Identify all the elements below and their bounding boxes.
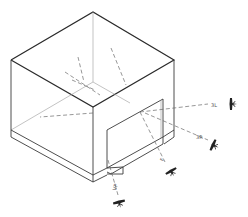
box-interior-edges — [11, 12, 130, 130]
box-vertical-edges — [11, 60, 174, 175]
ray-interior-vert-1 — [78, 57, 84, 82]
label-ray-bottom-right: F — [158, 157, 165, 162]
viewer-right-lower — [209, 139, 221, 153]
ray-interior-left — [40, 113, 93, 117]
eye-viewer-icon — [230, 98, 238, 110]
label-ray-right-upper: 3L — [211, 102, 217, 108]
ray-interior-diag-2 — [72, 80, 95, 90]
eye-viewer-icon — [113, 199, 127, 209]
ray-interior-diag — [65, 72, 100, 95]
isometric-box-diagram: 3L 3R F VP — [0, 0, 248, 217]
eye-viewer-icon — [209, 139, 221, 153]
box-base-slab — [11, 130, 174, 182]
ray-labels: 3L 3R F VP — [111, 102, 217, 191]
label-ray-bottom-left: VP — [111, 183, 118, 191]
sight-rays — [40, 48, 208, 195]
viewer-bottom-right — [165, 167, 179, 179]
viewer-right-upper — [230, 98, 238, 110]
eye-viewer-icon — [165, 167, 179, 179]
label-ray-right-lower: 3R — [196, 134, 203, 140]
box-top-rim — [11, 12, 174, 107]
viewer-bottom-left — [113, 199, 127, 209]
ray-interior-vert-2 — [111, 48, 126, 85]
diagram-canvas: 3L 3R F VP — [0, 0, 248, 217]
